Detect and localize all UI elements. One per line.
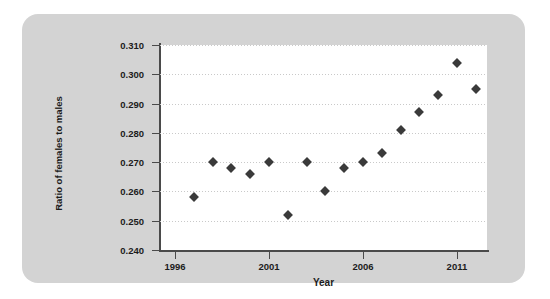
y-axis-title: Ratio of females to males xyxy=(53,79,64,229)
y-tick-label: 0.310 xyxy=(98,40,144,51)
grid-line xyxy=(160,221,487,222)
grid-line xyxy=(160,45,487,46)
y-tick-label: 0.260 xyxy=(98,186,144,197)
y-tick-label: 0.270 xyxy=(98,157,144,168)
y-tick xyxy=(152,104,160,105)
plot-area xyxy=(160,45,487,250)
y-tick xyxy=(152,162,160,163)
chart-figure: 0.2400.2500.2600.2700.2800.2900.3000.310… xyxy=(0,0,550,299)
y-tick xyxy=(152,221,160,222)
y-tick xyxy=(152,250,160,251)
x-axis-line xyxy=(159,250,489,252)
x-tick xyxy=(363,251,364,259)
y-tick-label: 0.280 xyxy=(98,127,144,138)
grid-line xyxy=(160,133,487,134)
y-tick-label: 0.240 xyxy=(98,245,144,256)
y-tick xyxy=(152,133,160,134)
y-tick xyxy=(152,74,160,75)
grid-line xyxy=(160,74,487,75)
y-tick xyxy=(152,191,160,192)
x-axis-title: Year xyxy=(160,277,487,288)
x-tick-label: 2011 xyxy=(447,261,468,272)
x-tick xyxy=(269,251,270,259)
x-tick xyxy=(457,251,458,259)
x-tick xyxy=(175,251,176,259)
x-tick-label: 2006 xyxy=(352,261,373,272)
y-tick xyxy=(152,45,160,46)
x-tick-label: 1996 xyxy=(164,261,185,272)
grid-line xyxy=(160,104,487,105)
y-tick-label: 0.300 xyxy=(98,69,144,80)
x-tick-label: 2001 xyxy=(258,261,279,272)
y-tick-label: 0.250 xyxy=(98,215,144,226)
y-tick-label: 0.290 xyxy=(98,98,144,109)
chart-card-panel: 0.2400.2500.2600.2700.2800.2900.3000.310… xyxy=(22,14,525,283)
